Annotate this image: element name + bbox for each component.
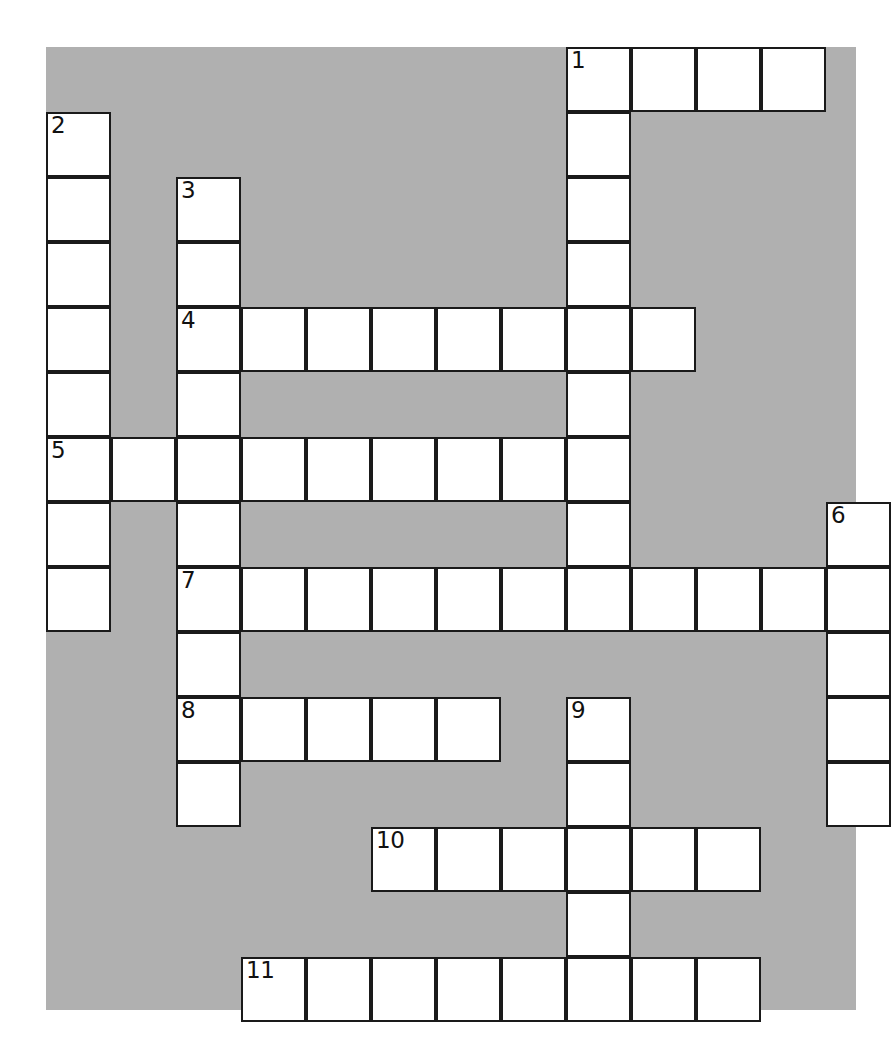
crossword-cell[interactable] <box>241 567 306 632</box>
crossword-cell-numbered[interactable]: 7 <box>176 567 241 632</box>
crossword-cell[interactable] <box>371 957 436 1022</box>
cell-number-label: 4 <box>181 308 195 332</box>
crossword-cell[interactable] <box>176 502 241 567</box>
cell-number-label: 7 <box>181 568 195 592</box>
crossword-cell[interactable] <box>826 762 891 827</box>
crossword-cell[interactable] <box>501 307 566 372</box>
crossword-cell[interactable] <box>176 762 241 827</box>
crossword-cell[interactable] <box>761 47 826 112</box>
crossword-cell[interactable] <box>566 762 631 827</box>
crossword-cell[interactable] <box>241 437 306 502</box>
crossword-cell[interactable] <box>696 47 761 112</box>
cell-number-label: 8 <box>181 698 195 722</box>
cell-number-label: 6 <box>831 503 845 527</box>
crossword-cell[interactable] <box>46 307 111 372</box>
crossword-cell[interactable] <box>566 307 631 372</box>
crossword-cell[interactable] <box>566 372 631 437</box>
crossword-cell[interactable] <box>371 567 436 632</box>
crossword-cell[interactable] <box>371 307 436 372</box>
crossword-cell[interactable] <box>46 567 111 632</box>
crossword-cell[interactable] <box>436 307 501 372</box>
crossword-cell[interactable] <box>631 567 696 632</box>
crossword-cell[interactable] <box>826 632 891 697</box>
crossword-cell[interactable] <box>566 502 631 567</box>
crossword-cell-numbered[interactable]: 11 <box>241 957 306 1022</box>
crossword-cell[interactable] <box>436 827 501 892</box>
crossword-cell[interactable] <box>436 437 501 502</box>
crossword-cell[interactable] <box>176 437 241 502</box>
crossword-cell[interactable] <box>631 47 696 112</box>
crossword-cell[interactable] <box>501 957 566 1022</box>
crossword-cell[interactable] <box>566 957 631 1022</box>
crossword-cell-numbered[interactable]: 2 <box>46 112 111 177</box>
crossword-cell-numbered[interactable]: 5 <box>46 437 111 502</box>
crossword-cell[interactable] <box>501 437 566 502</box>
crossword-cell[interactable] <box>371 437 436 502</box>
crossword-cell[interactable] <box>306 957 371 1022</box>
crossword-cell[interactable] <box>46 242 111 307</box>
crossword-cell[interactable] <box>436 567 501 632</box>
crossword-cell[interactable] <box>436 697 501 762</box>
crossword-cell[interactable] <box>306 567 371 632</box>
cell-number-label: 5 <box>51 438 65 462</box>
crossword-cell[interactable] <box>696 567 761 632</box>
crossword-cell-numbered[interactable]: 6 <box>826 502 891 567</box>
cell-number-label: 11 <box>246 958 274 982</box>
cell-number-label: 2 <box>51 113 65 137</box>
crossword-cell[interactable] <box>501 567 566 632</box>
crossword-cell[interactable] <box>566 827 631 892</box>
crossword-cell-numbered[interactable]: 8 <box>176 697 241 762</box>
crossword-cell[interactable] <box>46 502 111 567</box>
cell-number-label: 1 <box>571 48 585 72</box>
crossword-cell[interactable] <box>241 697 306 762</box>
crossword-cell-numbered[interactable]: 10 <box>371 827 436 892</box>
crossword-cell[interactable] <box>631 957 696 1022</box>
crossword-cell[interactable] <box>306 437 371 502</box>
crossword-cell[interactable] <box>436 957 501 1022</box>
crossword-cell[interactable] <box>46 177 111 242</box>
crossword-cell[interactable] <box>111 437 176 502</box>
crossword-cell[interactable] <box>631 827 696 892</box>
crossword-cell[interactable] <box>241 307 306 372</box>
crossword-cell-numbered[interactable]: 9 <box>566 697 631 762</box>
crossword-cell[interactable] <box>631 307 696 372</box>
crossword-cell-numbered[interactable]: 4 <box>176 307 241 372</box>
crossword-cell[interactable] <box>826 697 891 762</box>
crossword-cell[interactable] <box>566 437 631 502</box>
crossword-cell[interactable] <box>306 697 371 762</box>
crossword-cell[interactable] <box>566 177 631 242</box>
crossword-cell[interactable] <box>176 242 241 307</box>
crossword-cell-numbered[interactable]: 1 <box>566 47 631 112</box>
crossword-cell[interactable] <box>371 697 436 762</box>
crossword-cell[interactable] <box>566 567 631 632</box>
crossword-cell[interactable] <box>46 372 111 437</box>
crossword-cell[interactable] <box>566 242 631 307</box>
crossword-cell[interactable] <box>501 827 566 892</box>
crossword-cell[interactable] <box>696 957 761 1022</box>
crossword-cell[interactable] <box>176 632 241 697</box>
cell-number-label: 10 <box>376 828 404 852</box>
crossword-cell[interactable] <box>566 892 631 957</box>
cell-number-label: 3 <box>181 178 195 202</box>
crossword-cell[interactable] <box>306 307 371 372</box>
crossword-cell-numbered[interactable]: 3 <box>176 177 241 242</box>
crossword-cell[interactable] <box>761 567 826 632</box>
crossword-cell[interactable] <box>566 112 631 177</box>
crossword-cell[interactable] <box>826 567 891 632</box>
crossword-cell[interactable] <box>696 827 761 892</box>
cell-number-label: 9 <box>571 698 585 722</box>
crossword-cell[interactable] <box>176 372 241 437</box>
